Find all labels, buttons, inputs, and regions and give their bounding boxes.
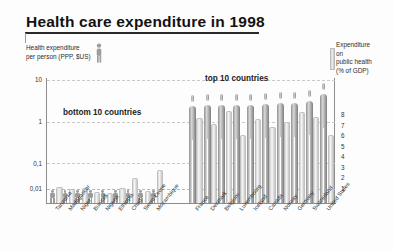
y-tick-left-0-01: 0,01 [20,185,42,192]
bar-public-health-gdp [211,124,217,203]
legend-right: Expenditure on public health (% of GDP) [336,41,372,75]
bar-expenditure-per-person [262,104,269,203]
y-tick-right-7: 7 [341,122,351,129]
figure-leg-split [192,140,193,203]
bar-public-health-gdp [299,112,305,203]
bar-public-health-gdp [226,111,232,203]
figure-head-icon [308,90,311,97]
figure-leg-split [265,138,266,203]
legend-left-line1: Health expenditure [26,44,91,53]
y-tick-right-2: 2 [341,174,351,181]
legend-right-line1: Expenditure [336,41,372,50]
figure-head-icon [206,94,209,101]
x-axis-labels: TanzaniaMadagascarNigerBurundiNigeriaEth… [0,203,394,251]
bar-expenditure-per-person [277,103,284,203]
y-tick-left-1: 1 [20,118,42,125]
bars-layer [47,78,335,203]
figure-head-icon [264,93,267,100]
figure-head-icon [322,83,325,90]
person-icon [94,43,104,63]
bar-expenditure-per-person [49,190,56,203]
y-tick-right-4: 4 [341,153,351,160]
figure-head-icon [220,94,223,101]
title-underline [25,32,259,34]
legend-right-swatch [330,48,335,70]
bar-public-health-gdp [313,117,319,203]
bar-expenditure-per-person [291,103,298,203]
bar-expenditure-per-person [189,106,196,203]
y-tick-left-0-1: 0,1 [20,160,42,167]
bar-public-health-gdp [196,118,202,203]
legend-right-line4: (% of GDP) [336,67,372,76]
y-tick-right-6: 6 [341,132,351,139]
bar-expenditure-per-person [204,105,211,203]
bar-public-health-gdp [240,135,246,203]
legend-left-line2: per person (PPP, $US) [26,53,91,62]
page-title: Health care expenditure in 1998 [26,13,265,31]
y-tick-right-3: 3 [341,164,351,171]
legend-right-line2: on [336,50,372,59]
chart-container: Health care expenditure in 1998 Health e… [0,0,394,251]
legend-right-line3: public health [336,58,372,67]
figure-head-icon [235,94,238,101]
y-tick-right-5: 5 [341,143,351,150]
bar-expenditure-per-person [218,105,225,203]
figure-head-icon [249,94,252,101]
bar-expenditure-per-person [306,101,313,203]
bar-public-health-gdp [269,127,275,203]
frame-left-tick [25,33,26,43]
bar-expenditure-per-person [233,105,240,203]
y-tick-right-8: 8 [341,111,351,118]
figure-head-icon [293,92,296,99]
figure-head-icon [279,92,282,99]
figure-head-icon [191,95,194,102]
figure-leg-split [207,139,208,203]
bar-public-health-gdp [284,122,290,204]
legend-left: Health expenditure per person (PPP, $US) [26,44,91,61]
y-tick-left-10: 10 [20,76,42,83]
